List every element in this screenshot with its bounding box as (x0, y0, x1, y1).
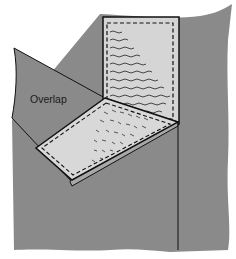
diagram-canvas: Overlap (0, 0, 236, 259)
overlap-label: Overlap (30, 93, 67, 105)
overlap-illustration (0, 0, 236, 259)
